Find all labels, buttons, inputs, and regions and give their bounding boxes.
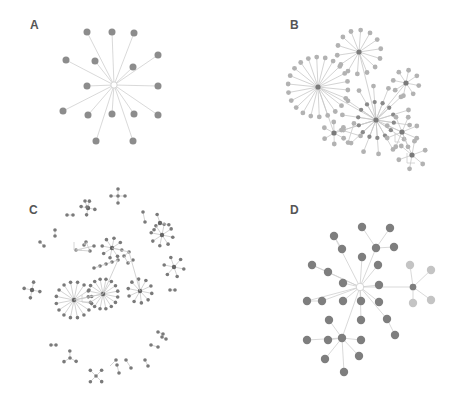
node (92, 58, 99, 65)
node (115, 363, 119, 367)
node (22, 287, 26, 291)
node (109, 29, 116, 36)
node (427, 266, 435, 274)
edge (359, 30, 361, 52)
node (420, 162, 425, 167)
node (345, 79, 350, 84)
node (116, 295, 120, 299)
edge (76, 246, 94, 250)
edge (334, 236, 360, 287)
node (168, 288, 172, 292)
edge (376, 83, 406, 120)
node (60, 108, 67, 115)
node (57, 288, 61, 292)
node (406, 144, 411, 149)
node (109, 111, 116, 118)
node (129, 366, 133, 370)
node (109, 305, 113, 309)
node (298, 60, 303, 65)
node (403, 80, 408, 85)
edge (342, 338, 344, 372)
node (155, 213, 159, 217)
node (410, 284, 417, 291)
node (111, 82, 117, 88)
node (340, 35, 345, 40)
node (288, 73, 293, 78)
node (149, 231, 153, 235)
node (149, 343, 153, 347)
node (356, 115, 360, 119)
node (358, 134, 363, 139)
node (82, 313, 86, 317)
node (127, 294, 131, 298)
node (89, 369, 93, 373)
node (150, 292, 154, 296)
node (85, 112, 92, 119)
node (53, 234, 57, 238)
edge (114, 85, 133, 141)
node (365, 70, 370, 75)
node (79, 205, 83, 209)
node (110, 280, 114, 284)
node (423, 148, 428, 153)
node (308, 261, 316, 269)
node (162, 263, 166, 267)
node (100, 380, 104, 384)
node (76, 316, 80, 320)
node (116, 187, 120, 191)
node (63, 57, 70, 64)
node (92, 244, 96, 248)
node (375, 298, 383, 306)
edge (114, 67, 133, 85)
node (339, 128, 344, 133)
node (169, 256, 173, 260)
node (345, 88, 350, 93)
node (349, 29, 354, 34)
node (357, 336, 365, 344)
node (412, 139, 417, 144)
node (160, 335, 164, 339)
node (414, 124, 419, 129)
node (166, 273, 170, 277)
node (100, 369, 104, 373)
node (160, 233, 164, 237)
node (38, 290, 42, 294)
edge (359, 40, 377, 52)
edge (87, 32, 114, 85)
node (179, 258, 183, 262)
node (375, 37, 380, 42)
edge (311, 87, 318, 116)
node (338, 334, 346, 342)
node (330, 232, 338, 240)
node (372, 244, 380, 252)
node (346, 140, 351, 145)
node (355, 72, 360, 77)
node (93, 280, 97, 284)
node (108, 256, 112, 260)
node (155, 83, 162, 90)
node (76, 281, 80, 285)
node (155, 52, 162, 59)
node (124, 358, 128, 362)
node (158, 221, 162, 225)
node (49, 343, 53, 347)
node (65, 213, 69, 217)
node (146, 298, 150, 302)
node (375, 136, 379, 140)
edge (112, 32, 114, 85)
node (406, 108, 411, 113)
node (409, 152, 414, 157)
node (407, 123, 412, 128)
node (114, 301, 118, 305)
node (130, 64, 137, 71)
node (74, 360, 78, 364)
node (341, 136, 346, 141)
node (323, 55, 328, 60)
edge (114, 85, 158, 86)
node (116, 201, 120, 205)
node (333, 109, 338, 114)
node (399, 144, 404, 149)
edge (359, 49, 381, 52)
node (416, 83, 421, 88)
node (104, 307, 108, 311)
